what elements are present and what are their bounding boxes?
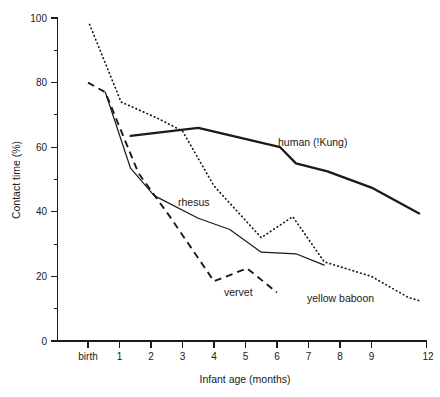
series-line-rhesus <box>105 92 324 265</box>
x-tick-label-9: 9 <box>369 351 375 362</box>
x-tick-label-8: 8 <box>337 351 343 362</box>
y-tick-label-0: 0 <box>41 336 47 347</box>
y-tick-label-60: 60 <box>36 142 48 153</box>
x-axis: birth 1 2 3 4 5 6 7 8 9 12 Infant age (m… <box>58 341 434 385</box>
figure-caption <box>0 381 440 397</box>
series-label-vervet: vervet <box>224 286 253 298</box>
series-line-yellow-baboon <box>90 24 420 300</box>
series-label-human: human (!Kung) <box>278 136 347 148</box>
x-tick-label-1: 1 <box>117 351 123 362</box>
y-tick-label-100: 100 <box>30 13 47 24</box>
series-line-vervet <box>88 83 277 293</box>
figure-container: 100 80 60 40 20 0 Contact time (%) birth… <box>0 0 440 397</box>
y-axis: 100 80 60 40 20 0 Contact time (%) <box>10 13 58 347</box>
y-tick-label-40: 40 <box>36 206 48 217</box>
y-tick-label-20: 20 <box>36 271 48 282</box>
x-tick-label-6: 6 <box>274 351 280 362</box>
y-axis-title: Contact time (%) <box>10 141 22 219</box>
series-line-human <box>131 128 420 214</box>
x-tick-label-2: 2 <box>148 351 154 362</box>
y-tick-label-80: 80 <box>36 77 48 88</box>
series-group <box>88 24 419 300</box>
series-label-rhesus: rhesus <box>178 196 210 208</box>
x-tick-label-3: 3 <box>180 351 186 362</box>
x-tick-label-12: 12 <box>422 351 434 362</box>
x-tick-label-4: 4 <box>211 351 217 362</box>
series-labels: human (!Kung) rhesus vervet yellow baboo… <box>178 136 374 304</box>
contact-time-line-chart: 100 80 60 40 20 0 Contact time (%) birth… <box>0 0 440 397</box>
x-tick-label-5: 5 <box>243 351 249 362</box>
x-tick-label-7: 7 <box>306 351 312 362</box>
x-tick-label-birth: birth <box>78 351 97 362</box>
series-label-baboon: yellow baboon <box>307 292 374 304</box>
